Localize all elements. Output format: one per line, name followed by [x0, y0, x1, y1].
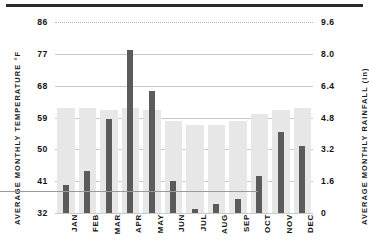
- left-tick-32: 32: [37, 209, 48, 218]
- temperature-bar: [299, 146, 305, 213]
- x-axis-baseline: [0, 191, 258, 192]
- right-tick-4.8: 4.8: [321, 114, 335, 123]
- month-label-jun: JUN: [177, 214, 186, 232]
- month-column: [227, 22, 249, 213]
- month-label-dec: DEC: [306, 214, 315, 233]
- right-tick-6.4: 6.4: [321, 82, 335, 91]
- month-label-nov: NOV: [285, 214, 294, 233]
- month-column: [249, 22, 271, 213]
- temperature-bar: [106, 119, 112, 213]
- month-column: [206, 22, 228, 213]
- month-column: [184, 22, 206, 213]
- month-column: [163, 22, 185, 213]
- top-rule-divider: [6, 4, 363, 7]
- temperature-bar: [235, 199, 241, 213]
- right-tick-9.6: 9.6: [321, 18, 335, 27]
- right-axis-title: AVERAGE MONTHLY RAINFALL (in): [360, 67, 369, 225]
- left-tick-59: 59: [37, 114, 48, 123]
- temperature-bar: [63, 185, 69, 213]
- month-column: [120, 22, 142, 213]
- x-axis-category-labels: JANFEBMARAPRMAYJUNJULAUGSEPOCTNOVDEC: [55, 214, 313, 252]
- temperature-bar: [256, 176, 262, 213]
- plot-area: [55, 22, 313, 213]
- month-column: [77, 22, 99, 213]
- temperature-bar: [192, 209, 198, 213]
- left-tick-50: 50: [37, 145, 48, 154]
- left-tick-41: 41: [37, 177, 48, 186]
- right-tick-3.2: 3.2: [321, 145, 335, 154]
- month-column: [141, 22, 163, 213]
- month-column: [270, 22, 292, 213]
- month-label-jan: JAN: [70, 214, 79, 232]
- right-tick-1.6: 1.6: [321, 177, 335, 186]
- temperature-bar: [149, 91, 155, 213]
- climate-chart: AVERAGE MONTHLY TEMPERATURE °F AVERAGE M…: [0, 0, 369, 252]
- rainfall-bar: [208, 125, 226, 213]
- left-tick-68: 68: [37, 82, 48, 91]
- left-tick-86: 86: [37, 18, 48, 27]
- month-column: [55, 22, 77, 213]
- temperature-bar: [278, 132, 284, 213]
- right-tick-0: 0: [321, 209, 326, 218]
- month-column: [98, 22, 120, 213]
- left-tick-77: 77: [37, 50, 48, 59]
- right-axis-tick-labels: 9.68.06.44.83.21.60: [321, 22, 351, 213]
- month-label-oct: OCT: [263, 214, 272, 233]
- month-label-aug: AUG: [220, 214, 229, 234]
- right-tick-8.0: 8.0: [321, 50, 335, 59]
- temperature-bar: [213, 204, 219, 213]
- month-label-sep: SEP: [242, 214, 251, 232]
- temperature-bar: [127, 50, 133, 213]
- month-label-apr: APR: [134, 214, 143, 233]
- month-column: [292, 22, 314, 213]
- left-axis-tick-labels: 86776859504132: [14, 22, 48, 213]
- rainfall-bar: [186, 125, 204, 213]
- month-label-mar: MAR: [113, 214, 122, 234]
- month-label-jul: JUL: [199, 214, 208, 231]
- month-label-feb: FEB: [91, 214, 100, 232]
- temperature-bar: [170, 181, 176, 213]
- month-label-may: MAY: [156, 214, 165, 233]
